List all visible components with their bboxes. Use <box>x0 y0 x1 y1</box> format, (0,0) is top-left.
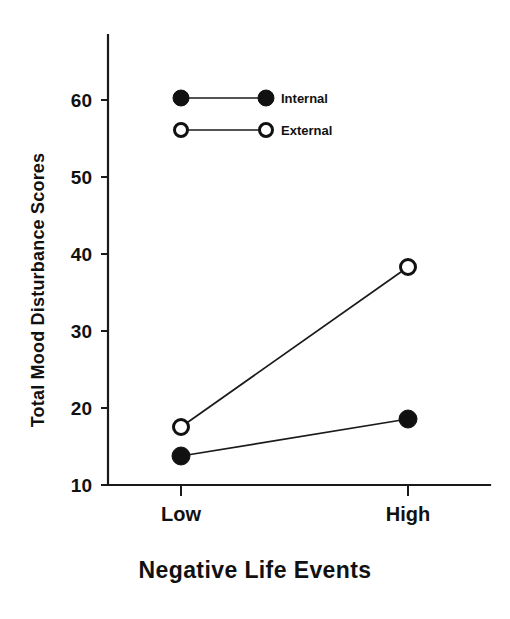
x-tick-label-high: High <box>386 503 430 525</box>
legend-marker-external-right-icon <box>260 124 273 137</box>
y-tick-label-40: 40 <box>71 244 92 265</box>
legend-entry-external: External <box>175 123 333 138</box>
y-tick-label-10: 10 <box>71 475 92 496</box>
x-tick-marks <box>181 485 408 496</box>
legend-label-internal: Internal <box>281 91 328 106</box>
y-tick-label-50: 50 <box>71 167 92 188</box>
y-tick-label-60: 60 <box>71 90 92 111</box>
line-chart: 60 50 40 30 20 10 Low High <box>0 0 510 619</box>
y-tick-label-30: 30 <box>71 321 92 342</box>
series-external <box>174 260 416 435</box>
series-internal <box>172 410 417 465</box>
series-internal-line <box>181 419 408 456</box>
series-external-line <box>181 267 408 427</box>
data-point-external-low <box>174 420 189 435</box>
legend-marker-internal-left-icon <box>173 90 189 106</box>
legend-label-external: External <box>281 123 332 138</box>
y-tick-labels: 60 50 40 30 20 10 <box>71 90 92 496</box>
x-tick-label-low: Low <box>161 503 201 525</box>
y-axis-title: Total Mood Disturbance Scores <box>28 153 48 428</box>
y-tick-label-20: 20 <box>71 398 92 419</box>
chart-legend: Internal External <box>173 90 332 138</box>
x-tick-labels: Low High <box>161 503 430 525</box>
legend-entry-internal: Internal <box>173 90 328 106</box>
chart-figure: 60 50 40 30 20 10 Low High <box>0 0 510 619</box>
legend-marker-internal-right-icon <box>258 90 274 106</box>
legend-marker-external-left-icon <box>175 124 188 137</box>
data-point-internal-high <box>399 410 417 428</box>
data-point-external-high <box>401 260 416 275</box>
data-point-internal-low <box>172 447 190 465</box>
x-axis-title: Negative Life Events <box>139 557 372 583</box>
